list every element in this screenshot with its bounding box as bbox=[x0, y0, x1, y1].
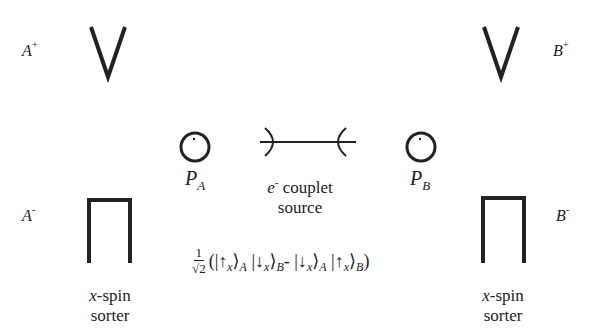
label-b-minus: B- bbox=[556, 205, 569, 225]
left-spin-sorter-icon bbox=[89, 200, 130, 263]
left-sorter-caption: x-spin sorter bbox=[70, 286, 150, 326]
polarizer-a-dot-icon bbox=[193, 138, 195, 140]
label-a-plus: A+ bbox=[22, 40, 38, 60]
label-a-minus: A- bbox=[22, 205, 35, 225]
right-spin-sorter-icon bbox=[483, 198, 524, 263]
polarizer-b-icon bbox=[407, 133, 435, 161]
entangled-state-formula: 1 √2 ( |↑x⟩A |↓x⟩B - |↓x⟩A |↑x⟩B ) bbox=[192, 246, 369, 276]
right-sorter-caption: x-spin sorter bbox=[463, 286, 543, 326]
left-v-detector-icon bbox=[91, 27, 125, 77]
electron-source-icon bbox=[260, 128, 356, 156]
right-v-detector-icon bbox=[484, 27, 518, 77]
normalization-fraction: 1 √2 bbox=[192, 246, 206, 276]
diagram-graphics bbox=[0, 0, 598, 334]
label-b-plus: B+ bbox=[553, 40, 569, 60]
polarizer-a-icon bbox=[181, 133, 209, 161]
source-caption: e- couplet source bbox=[245, 172, 355, 218]
label-polarizer-a: PA bbox=[185, 167, 205, 194]
label-polarizer-b: PB bbox=[410, 167, 430, 194]
polarizer-b-dot-icon bbox=[419, 138, 421, 140]
